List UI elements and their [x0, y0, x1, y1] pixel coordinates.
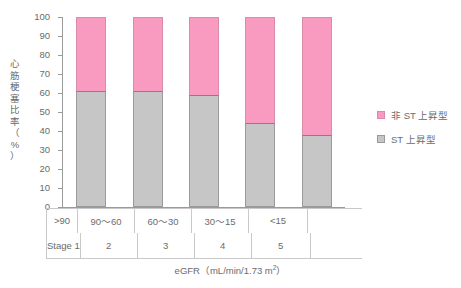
- category-cell-egfr-5: <15: [248, 208, 308, 233]
- bar-segment-st-elevation-4[interactable]: [245, 123, 275, 207]
- bar-segment-st-elevation-1[interactable]: [76, 91, 106, 207]
- bar-segment-non-st-elevation-2[interactable]: [133, 17, 163, 91]
- y-tick-label-30: 30: [39, 145, 50, 155]
- bar-group-1[interactable]: [76, 17, 106, 207]
- category-cell-stage-2: 2: [80, 233, 137, 258]
- category-row-egfr: >9090〜6060〜3030〜15<15: [46, 208, 362, 233]
- legend-label-st-elevation: ST 上昇型: [391, 132, 436, 146]
- category-cell-egfr-2: 90〜60: [77, 208, 134, 233]
- plot-area: 0102030405060708090100: [63, 17, 345, 207]
- y-tick-label-20: 20: [39, 164, 50, 174]
- y-tick-label-90: 90: [39, 31, 50, 41]
- y-tick-label-50: 50: [39, 107, 50, 117]
- y-tick-label-60: 60: [39, 88, 50, 98]
- bar-segment-st-elevation-3[interactable]: [189, 95, 219, 207]
- y-tick-20: 20: [58, 169, 63, 170]
- y-tick-10: 10: [58, 188, 63, 189]
- y-tick-40: 40: [58, 131, 63, 132]
- category-cell-stage-4: 4: [194, 233, 251, 258]
- x-axis-title-prefix: eGFR（mL/min/1.73 m: [175, 265, 273, 276]
- y-tick-50: 50: [58, 112, 63, 113]
- legend-label-non-st-elevation: 非 ST 上昇型: [391, 108, 448, 122]
- bar-group-3[interactable]: [189, 17, 219, 207]
- legend-item-non-st-elevation: 非 ST 上昇型: [377, 108, 461, 122]
- y-tick-label-70: 70: [39, 69, 50, 79]
- bar-segment-st-elevation-2[interactable]: [133, 91, 163, 207]
- y-tick-90: 90: [58, 36, 63, 37]
- y-tick-100: 100: [58, 17, 63, 18]
- y-tick-label-100: 100: [34, 12, 50, 22]
- chart-legend: 非 ST 上昇型 ST 上昇型: [377, 108, 461, 156]
- category-table-bottom-rule: [46, 258, 362, 259]
- y-tick-label-10: 10: [39, 183, 50, 193]
- legend-item-st-elevation: ST 上昇型: [377, 132, 461, 146]
- category-cell-stage-3: 3: [137, 233, 194, 258]
- bar-segment-non-st-elevation-5[interactable]: [302, 17, 332, 135]
- x-axis-title: eGFR（mL/min/1.73 m2）: [0, 263, 461, 277]
- category-cell-stage-1: Stage 1: [46, 233, 80, 258]
- y-tick-label-40: 40: [39, 126, 50, 136]
- category-cell-egfr-3: 60〜30: [134, 208, 191, 233]
- y-tick-60: 60: [58, 93, 63, 94]
- bar-group-2[interactable]: [133, 17, 163, 207]
- bar-segment-st-elevation-5[interactable]: [302, 135, 332, 207]
- y-axis-title: 心 筋 梗 塞 比 率 （ % ）: [6, 58, 24, 162]
- chart-container: 心 筋 梗 塞 比 率 （ % ） 0102030405060708090100…: [0, 0, 461, 288]
- y-tick-label-80: 80: [39, 50, 50, 60]
- category-cell-stage-5: 5: [251, 233, 311, 258]
- x-axis-title-suffix: ）: [276, 265, 286, 276]
- category-row-stage: Stage 12345: [46, 233, 362, 258]
- y-tick-30: 30: [58, 150, 63, 151]
- bar-group-4[interactable]: [245, 17, 275, 207]
- category-table: >9090〜6060〜3030〜15<15 Stage 12345: [46, 208, 362, 258]
- bar-group-5[interactable]: [302, 17, 332, 207]
- bar-segment-non-st-elevation-1[interactable]: [76, 17, 106, 91]
- category-cell-egfr-1: >90: [46, 208, 77, 233]
- bar-segment-non-st-elevation-4[interactable]: [245, 17, 275, 123]
- bar-segment-non-st-elevation-3[interactable]: [189, 17, 219, 95]
- legend-swatch-icon-gray: [377, 135, 385, 143]
- y-tick-70: 70: [58, 74, 63, 75]
- category-cell-egfr-4: 30〜15: [191, 208, 248, 233]
- legend-swatch-icon-pink: [377, 111, 385, 119]
- y-tick-80: 80: [58, 55, 63, 56]
